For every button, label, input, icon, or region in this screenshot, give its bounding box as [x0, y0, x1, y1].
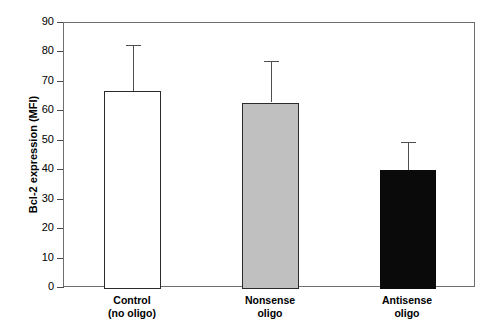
bar-antisense [380, 170, 436, 289]
category-label-line1: Control [113, 294, 150, 306]
y-tick-label-10: 10 [20, 252, 54, 263]
y-axis-tick-labels: 0102030405060708090 [14, 0, 54, 329]
category-label-nonsense: Nonsenseoligo [200, 294, 340, 320]
plot-area [63, 22, 475, 287]
y-tick-label-20: 20 [20, 222, 54, 233]
category-label-antisense: Antisenseoligo [337, 294, 477, 320]
error-bar-cap-control [126, 45, 141, 46]
category-label-line1: Antisense [382, 294, 432, 306]
category-label-line2: (no oligo) [62, 307, 202, 320]
y-tick-label-50: 50 [20, 134, 54, 145]
y-tick-0 [57, 287, 64, 288]
y-tick-label-90: 90 [20, 16, 54, 27]
bar-chart-figure: Bcl-2 expression (MFI) 01020304050607080… [0, 0, 495, 329]
y-tick-label-80: 80 [20, 45, 54, 56]
error-bar-stem-antisense [408, 142, 409, 170]
category-label-line1: Nonsense [245, 294, 295, 306]
category-label-line2: oligo [200, 307, 340, 320]
y-tick-label-70: 70 [20, 75, 54, 86]
error-bar-cap-nonsense [264, 61, 279, 62]
bar-nonsense [242, 103, 299, 290]
y-tick-label-40: 40 [20, 163, 54, 174]
y-tick-label-0: 0 [20, 281, 54, 292]
error-bar-stem-control [133, 45, 134, 91]
category-label-control: Control(no oligo) [62, 294, 202, 320]
bar-control [104, 91, 161, 289]
category-label-line2: oligo [337, 307, 477, 320]
error-bar-stem-nonsense [271, 61, 272, 102]
y-tick-label-60: 60 [20, 104, 54, 115]
error-bar-cap-antisense [401, 142, 416, 143]
y-tick-label-30: 30 [20, 193, 54, 204]
